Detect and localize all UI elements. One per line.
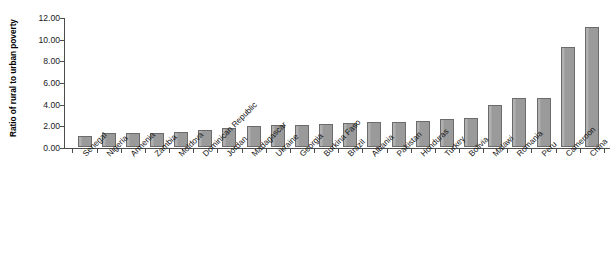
y-axis-title: Ratio of rural to urban poverty bbox=[0, 0, 26, 155]
y-axis-tick bbox=[60, 83, 64, 84]
y-axis-tick-label: 4.00 bbox=[26, 100, 60, 110]
bar-chart: Ratio of rural to urban poverty 0.002.00… bbox=[0, 0, 614, 255]
y-axis-tick bbox=[60, 126, 64, 127]
y-axis-tick-label: 8.00 bbox=[26, 56, 60, 66]
bar bbox=[561, 47, 575, 147]
plot-area bbox=[64, 18, 610, 148]
y-axis-tick-label: 12.00 bbox=[26, 13, 60, 23]
y-axis-tick-label: 10.00 bbox=[26, 35, 60, 45]
y-axis-tick bbox=[60, 61, 64, 62]
y-axis-tick-label: 0.00 bbox=[26, 143, 60, 153]
y-axis-tick-labels: 0.002.004.006.008.0010.0012.00 bbox=[26, 18, 60, 149]
y-axis-tick-label: 2.00 bbox=[26, 121, 60, 131]
y-axis-line bbox=[64, 18, 65, 149]
y-axis-tick bbox=[60, 105, 64, 106]
y-axis-title-text: Ratio of rural to urban poverty bbox=[8, 19, 18, 137]
y-axis-tick bbox=[60, 40, 64, 41]
y-axis-tick bbox=[60, 18, 64, 19]
x-axis-category-labels: SenegalNigeriaArmeniaZambiaMoldovaDomini… bbox=[64, 149, 610, 255]
y-axis-tick-label: 6.00 bbox=[26, 78, 60, 88]
